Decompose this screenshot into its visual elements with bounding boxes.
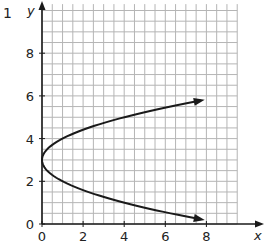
x-tick-label: 6 bbox=[161, 229, 169, 244]
x-tick-label: 8 bbox=[202, 229, 210, 244]
parabola-chart: 0246802468 1 x y bbox=[0, 0, 269, 244]
arrowhead-icon bbox=[193, 214, 205, 222]
y-axis-label: y bbox=[26, 3, 35, 18]
arrowhead-icon bbox=[193, 98, 205, 106]
x-axis-label: x bbox=[253, 228, 262, 243]
x-tick-label: 4 bbox=[120, 229, 128, 244]
x-tick-label: 0 bbox=[38, 229, 46, 244]
y-tick-label: 6 bbox=[26, 89, 34, 104]
y-tick-label: 0 bbox=[26, 217, 34, 232]
x-tick-label: 2 bbox=[79, 229, 87, 244]
y-tick-label: 8 bbox=[26, 46, 34, 61]
question-number: 1 bbox=[3, 5, 12, 21]
y-tick-label: 4 bbox=[26, 132, 34, 147]
y-tick-label: 2 bbox=[26, 174, 34, 189]
